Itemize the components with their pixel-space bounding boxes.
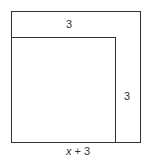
right-band-label: 3 [124, 91, 130, 102]
top-band-label: 3 [66, 19, 72, 30]
bottom-side-label: x + 3 [66, 146, 90, 157]
bottom-expression-rest: + 3 [72, 145, 91, 157]
inner-square [11, 37, 116, 143]
